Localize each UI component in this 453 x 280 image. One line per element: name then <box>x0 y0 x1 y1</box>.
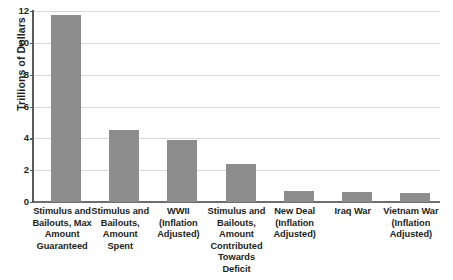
category-label: Vietnam War(InflationAdjusted) <box>378 206 444 241</box>
category-label-line: Stimulus and <box>203 206 269 218</box>
bars-layer <box>33 11 440 202</box>
bar <box>284 191 314 202</box>
category-label-line: Bailouts, <box>87 218 153 230</box>
category-label-line: Amount <box>87 229 153 241</box>
y-tick-label: 0 <box>7 197 29 207</box>
category-label-line: Bailouts, Max <box>29 218 95 230</box>
category-label-line: (Inflation <box>378 218 444 230</box>
category-label-line: Stimulus and <box>29 206 95 218</box>
category-label-line: Iraq War <box>320 206 386 218</box>
category-label-line: Stimulus and <box>87 206 153 218</box>
category-label: Stimulus andBailouts, MaxAmountGuarantee… <box>29 206 95 252</box>
y-axis-tick-labels: 024681012 <box>0 11 29 202</box>
category-label: Stimulus andBailouts,AmountSpent <box>87 206 153 252</box>
category-label-line: Contributed <box>203 241 269 253</box>
x-axis-category-labels: Stimulus andBailouts, MaxAmountGuarantee… <box>33 206 447 280</box>
y-tick-label: 4 <box>7 133 29 143</box>
y-tick-label: 6 <box>7 102 29 112</box>
bar <box>342 192 372 202</box>
bar <box>400 193 430 202</box>
category-label-line: (Inflation <box>145 218 211 230</box>
category-label-line: Adjusted) <box>145 229 211 241</box>
category-label-line: Amount <box>203 229 269 241</box>
category-label: WWII(InflationAdjusted) <box>145 206 211 241</box>
category-label: Stimulus andBailouts,AmountContributedTo… <box>203 206 269 276</box>
category-label-line: Adjusted) <box>262 229 328 241</box>
category-label-line: New Deal <box>262 206 328 218</box>
category-label-line: WWII <box>145 206 211 218</box>
category-label-line: Towards Deficit <box>203 252 269 275</box>
bar <box>167 140 197 202</box>
category-label-line: Adjusted) <box>378 229 444 241</box>
bar <box>226 164 256 202</box>
category-label-line: Guaranteed <box>29 241 95 253</box>
category-label-line: Bailouts, <box>203 218 269 230</box>
y-tick-label: 10 <box>7 38 29 48</box>
category-label-line: Vietnam War <box>378 206 444 218</box>
category-label: New Deal(InflationAdjusted) <box>262 206 328 241</box>
y-tick-label: 8 <box>7 70 29 80</box>
category-label-line: (Inflation <box>262 218 328 230</box>
category-label-line: Amount <box>29 229 95 241</box>
y-tick-label: 12 <box>7 6 29 16</box>
bar <box>51 15 81 202</box>
category-label-line: Spent <box>87 241 153 253</box>
bar-chart: Trillions of Dollars 024681012 Stimulus … <box>0 0 453 280</box>
y-tick-label: 2 <box>7 165 29 175</box>
bar <box>109 130 139 202</box>
category-label: Iraq War <box>320 206 386 218</box>
